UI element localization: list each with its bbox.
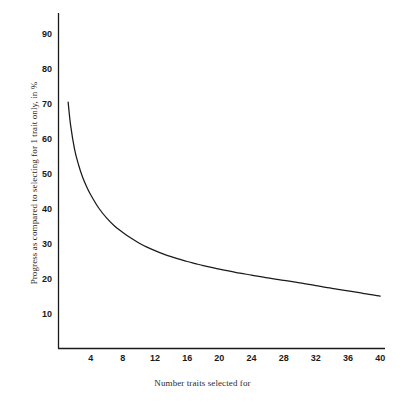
x-tick-label: 24: [246, 354, 256, 363]
x-axis-title: Number traits selected for: [0, 378, 405, 388]
x-tick-label: 32: [311, 354, 321, 363]
chart-figure: 102030405060708090 481216202428323640 Nu…: [0, 0, 405, 402]
y-tick-label: 90: [28, 29, 52, 38]
x-tick-label: 16: [182, 354, 192, 363]
y-axis-title: Progress as compared to selecting for 1 …: [29, 51, 39, 315]
x-tick-label: 36: [343, 354, 353, 363]
x-tick-label: 40: [375, 354, 385, 363]
x-tick-label: 28: [279, 354, 289, 363]
x-tick-label: 20: [214, 354, 224, 363]
plot-background: [0, 0, 405, 402]
x-tick-label: 4: [88, 354, 93, 363]
plot-area: [0, 0, 405, 402]
x-tick-label: 12: [150, 354, 160, 363]
x-tick-label: 8: [120, 354, 125, 363]
